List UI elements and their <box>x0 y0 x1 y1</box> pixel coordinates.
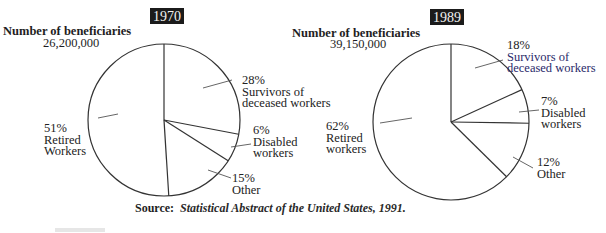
label-survivors-1970: 28% Survivors of deceased workers <box>242 75 331 110</box>
beneficiaries-count-1970: 26,200,000 <box>43 37 99 50</box>
label-disabled-1989: 7% Disabled workers <box>541 96 585 131</box>
label-other-1989: 12% Other <box>537 157 565 180</box>
label-disabled-1970: 6% Disabled workers <box>253 125 297 160</box>
label-other-1970: 15% Other <box>232 173 260 196</box>
chart-title-1989: 1989 <box>430 9 464 25</box>
faint-scan-mark <box>55 228 105 232</box>
chart-title-1970: 1970 <box>150 8 184 24</box>
label-retired-1970: 51% Retired Workers <box>44 123 86 158</box>
source-text: Statistical Abstract of the United State… <box>180 201 406 215</box>
source-citation: Source: Statistical Abstract of the Unit… <box>135 201 406 216</box>
label-survivors-1989: 18% Survivors of deceased workers <box>507 40 596 75</box>
source-prefix: Source: <box>135 201 174 215</box>
label-retired-1989: 62% Retired workers <box>326 121 366 156</box>
beneficiaries-count-1989: 39,150,000 <box>330 38 386 51</box>
